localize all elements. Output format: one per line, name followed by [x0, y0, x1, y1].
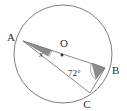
label-center-o: O: [60, 37, 68, 49]
label-point-c: C: [83, 98, 90, 110]
angle-marker-a: [23, 41, 51, 56]
segment-ac: [23, 41, 90, 93]
label-angle-x: x: [38, 50, 43, 59]
label-angle-72: 72°: [68, 68, 81, 78]
center-point-o: [61, 54, 64, 57]
label-point-b: B: [112, 64, 119, 76]
geometry-diagram: A B C O x 72°: [0, 0, 127, 111]
label-point-a: A: [7, 31, 15, 43]
